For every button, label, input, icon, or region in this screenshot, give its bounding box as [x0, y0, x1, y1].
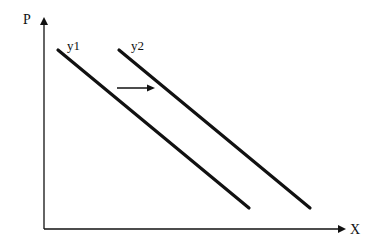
x-axis-label: X: [350, 222, 360, 237]
diagram-svg: P X y1 y2: [0, 0, 380, 248]
curve-y1-label: y1: [67, 38, 80, 53]
curve-y1: [58, 50, 249, 208]
y-axis-label: P: [23, 12, 31, 27]
diagram-canvas: P X y1 y2: [0, 0, 380, 248]
curve-y2-label: y2: [131, 38, 144, 53]
curve-y2: [119, 50, 310, 208]
